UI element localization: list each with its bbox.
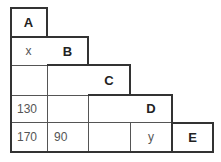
cell-d-a: 130 [10, 95, 47, 122]
outline [172, 122, 214, 124]
cell-e-a: 170 [10, 122, 47, 152]
cell-c-a [10, 65, 47, 95]
outline [129, 64, 131, 95]
grid-line [130, 122, 131, 152]
outline [10, 151, 214, 153]
grid-line [47, 65, 48, 152]
grid-line [88, 95, 89, 152]
cell-e-d: y [130, 122, 172, 152]
header-cell-e: E [172, 122, 213, 152]
outline [88, 94, 172, 96]
outline [10, 36, 88, 38]
outline [87, 36, 89, 66]
cell-b-a: x [10, 37, 47, 65]
outline [10, 7, 12, 152]
header-cell-c: C [88, 65, 130, 95]
outline [212, 122, 214, 153]
header-cell-b: B [47, 37, 88, 65]
grid-line [10, 122, 172, 123]
cell-d-b [47, 95, 88, 122]
cell-c-b [47, 65, 88, 95]
cell-e-c [88, 122, 130, 152]
outline [10, 7, 47, 9]
cell-d-c [88, 95, 130, 122]
outline [46, 7, 48, 37]
header-cell-d: D [130, 95, 172, 122]
cell-e-b: 90 [47, 122, 88, 152]
header-cell-a: A [10, 7, 47, 37]
outline [47, 64, 130, 66]
